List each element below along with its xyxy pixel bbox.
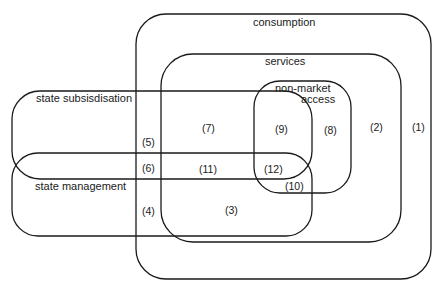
consumption-label: consumption: [253, 17, 315, 28]
region-11-label: (11): [199, 164, 217, 175]
region-9-label: (9): [275, 124, 288, 135]
diagram-shapes: [0, 0, 442, 290]
region-5-label: (5): [142, 137, 155, 148]
region-10-label: (10): [285, 181, 304, 192]
region-4-label: (4): [142, 206, 155, 217]
region-6-label: (6): [142, 163, 155, 174]
region-7-label: (7): [202, 123, 215, 134]
region-3-label: (3): [225, 205, 238, 216]
region-1-label: (1): [412, 122, 425, 133]
region-2-label: (2): [370, 122, 383, 133]
services-label: services: [265, 56, 305, 67]
state-subsidisation-label: state subsisdisation: [36, 93, 132, 104]
non-market-access-label-line2: access: [301, 94, 335, 105]
region-12-label: (12): [264, 164, 283, 175]
region-8-label: (8): [324, 125, 337, 136]
state-management-label: state management: [35, 181, 126, 192]
venn-diagram: consumption services non-market access s…: [0, 0, 442, 290]
